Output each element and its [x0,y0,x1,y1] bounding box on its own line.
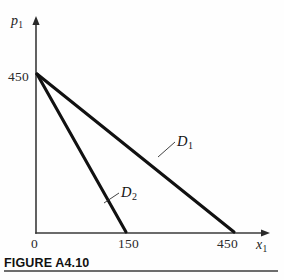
figure-page: p1 x1 450 0 150 450 D1 D2 FIGURE A4.10 [0,0,284,280]
y-axis-tick-450: 450 [8,70,29,84]
origin-tick-label: 0 [31,237,38,251]
leader-line-d1 [158,142,175,157]
x-axis-label: x1 [256,238,267,252]
y-axis-arrow-icon [32,16,39,25]
curve-label-d1-text: D [177,133,187,149]
y-axis-label: p1 [11,14,23,28]
curve-label-d1-subscript: 1 [188,140,193,151]
x-axis-tick-450: 450 [217,237,238,251]
x-axis-label-text: x [256,237,262,252]
y-axis-label-subscript: 1 [18,20,23,30]
curve-label-d2-subscript: 2 [132,191,137,202]
x-axis-arrow-icon [261,229,270,236]
demand-curve-d2 [37,74,126,232]
figure-caption: FIGURE A4.10 [4,256,89,270]
curve-label-d2-text: D [121,184,131,200]
x-axis-tick-150: 150 [118,237,139,251]
figure-canvas [0,0,284,280]
y-axis-label-text: p [11,13,18,28]
demand-curve-d1 [37,74,234,232]
x-axis-label-subscript: 1 [263,244,268,254]
curve-label-d2: D2 [121,185,136,200]
curve-label-d1: D1 [177,134,192,149]
